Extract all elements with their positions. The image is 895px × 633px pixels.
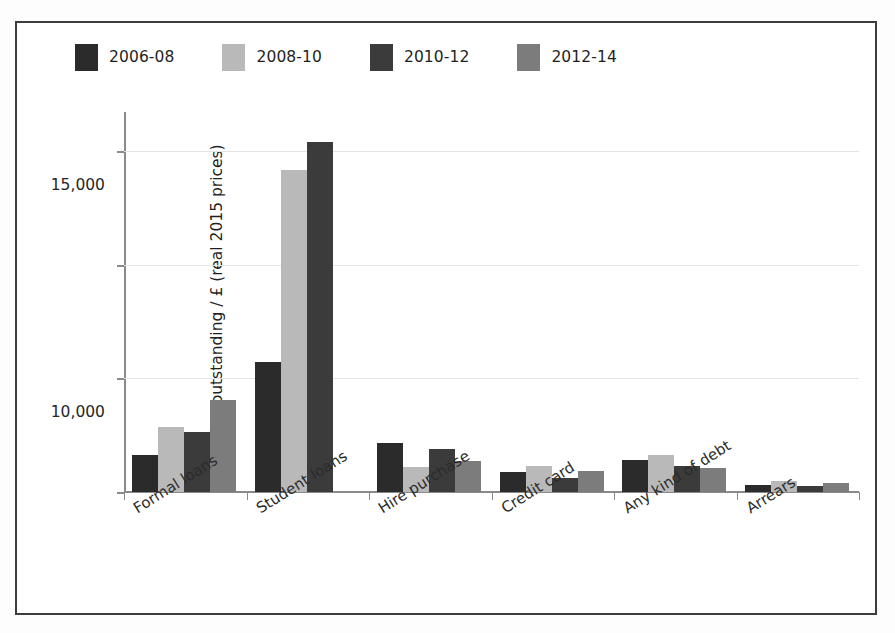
legend-item-2008-10[interactable]: 2008-10 [222, 44, 321, 71]
x-tick-mark [737, 492, 738, 500]
legend-swatch-icon [517, 44, 540, 71]
bar[interactable] [210, 400, 236, 492]
chart-page: 2006-082008-102010-122012-14 Median outs… [0, 0, 895, 633]
bar-group-credit-card [500, 117, 604, 492]
y-tick-mark: 5,000 [117, 378, 124, 380]
legend-swatch-icon [222, 44, 245, 71]
bar[interactable] [797, 486, 823, 492]
legend-item-2012-14[interactable]: 2012-14 [517, 44, 616, 71]
x-tick-mark [124, 492, 125, 500]
legend-item-2006-08[interactable]: 2006-08 [75, 44, 174, 71]
legend-swatch-icon [75, 44, 98, 71]
legend-label: 2010-12 [404, 48, 469, 66]
y-tick-label: 10,000 [51, 403, 105, 421]
legend-label: 2008-10 [256, 48, 321, 66]
x-tick-mark [369, 492, 370, 500]
x-tick-mark [247, 492, 248, 500]
bar-series-container [124, 117, 859, 492]
chart-legend: 2006-082008-102010-122012-14 [75, 43, 665, 71]
y-tick-mark: 0 [117, 492, 124, 494]
legend-swatch-icon [370, 44, 393, 71]
bar[interactable] [823, 483, 849, 492]
bar[interactable] [307, 142, 333, 492]
x-tick-mark [859, 492, 860, 500]
y-tick-label: 15,000 [51, 176, 105, 194]
bar[interactable] [377, 443, 403, 492]
bar-group-hire-purchase [377, 117, 481, 492]
bar-group-formal-loans [132, 117, 236, 492]
bar[interactable] [255, 362, 281, 492]
legend-label: 2006-08 [109, 48, 174, 66]
y-tick-mark: 15,000 [117, 151, 124, 153]
y-tick-mark: 10,000 [117, 265, 124, 267]
bar-group-arrears [745, 117, 849, 492]
bar[interactable] [578, 471, 604, 492]
x-tick-mark [614, 492, 615, 500]
bar-group-any-kind-of-debt [622, 117, 726, 492]
plot-area: Median outstanding / £ (real 2015 prices… [124, 117, 859, 492]
bar-group-student-loans [255, 117, 359, 492]
legend-item-2010-12[interactable]: 2010-12 [370, 44, 469, 71]
x-tick-mark [492, 492, 493, 500]
bar[interactable] [700, 468, 726, 492]
bar[interactable] [281, 170, 307, 492]
legend-label: 2012-14 [551, 48, 616, 66]
